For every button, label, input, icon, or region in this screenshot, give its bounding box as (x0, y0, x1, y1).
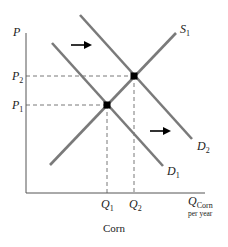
diagram-title: Corn (103, 222, 126, 234)
d2-label: D2 (196, 139, 210, 155)
q2-label: Q2 (129, 197, 142, 213)
shift-arrow-icon (150, 127, 171, 135)
x-axis-label: QCorn (188, 194, 213, 210)
p1-label: P1 (11, 98, 23, 114)
q1-label: Q1 (101, 197, 114, 213)
supply-demand-diagram: P P2 P1 Q1 Q2 QCorn per year S1 D1 D2 Co… (0, 0, 228, 247)
y-axis-label: P (12, 25, 21, 39)
d1-label: D1 (166, 164, 180, 180)
s1-label: S1 (180, 22, 190, 38)
x-axis-note: per year (188, 209, 213, 218)
equilibrium-point-2 (131, 73, 138, 80)
shift-arrow-icon (71, 41, 92, 49)
p2-label: P2 (11, 69, 23, 85)
equilibrium-point-1 (104, 102, 111, 109)
